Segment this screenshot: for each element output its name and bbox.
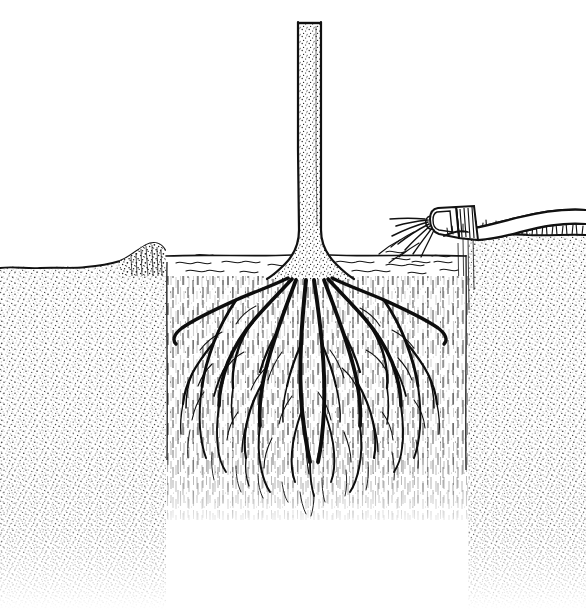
nozzle-inner-panel [433, 211, 452, 232]
wet-zone-edge-right [466, 255, 467, 470]
wet-zone-edge-left [167, 262, 168, 460]
tree-root-irrigation-drawing [0, 0, 586, 611]
illustration-canvas [0, 0, 586, 611]
